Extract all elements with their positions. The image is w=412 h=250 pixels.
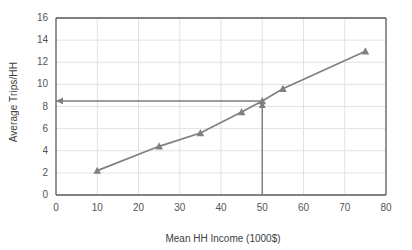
gridlines xyxy=(56,18,386,195)
chart-container: Average Trips/HH 0246810121416 010203040… xyxy=(0,0,412,250)
x-axis-title-text: Mean HH Income (1000$) xyxy=(165,233,280,244)
data-point-marker xyxy=(238,108,246,115)
horizontal-reference-line-arrowhead xyxy=(56,98,63,105)
x-axis-title: Mean HH Income (1000$) xyxy=(56,228,390,246)
plot-area xyxy=(0,0,412,250)
data-point-marker xyxy=(197,129,205,136)
data-point-marker xyxy=(362,47,370,54)
series-polyline xyxy=(97,51,365,170)
data-point-markers xyxy=(93,47,369,174)
data-series-line xyxy=(97,51,365,170)
